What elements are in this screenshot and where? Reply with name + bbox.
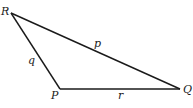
- side-label-q: q: [28, 54, 35, 67]
- vertex-label-r: R: [0, 5, 9, 18]
- side-label-p: p: [94, 37, 101, 50]
- triangle-diagram: R P Q p q r: [0, 0, 193, 108]
- vertex-label-q: Q: [183, 83, 192, 96]
- side-p: [11, 13, 180, 89]
- vertex-label-p: P: [50, 89, 59, 102]
- side-label-r: r: [118, 89, 124, 102]
